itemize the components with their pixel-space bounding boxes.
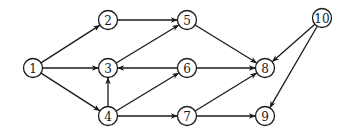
edge-4-to-6 bbox=[116, 73, 178, 111]
node-9: 9 bbox=[256, 107, 275, 126]
node-1: 1 bbox=[24, 59, 43, 78]
node-5: 5 bbox=[178, 11, 197, 30]
node-6: 6 bbox=[178, 59, 197, 78]
edge-10-to-8 bbox=[273, 24, 315, 61]
node-7: 7 bbox=[178, 107, 197, 126]
edge-10-to-9 bbox=[270, 26, 317, 107]
node-label: 8 bbox=[261, 62, 269, 76]
node-10: 10 bbox=[313, 9, 332, 28]
node-label: 3 bbox=[104, 62, 112, 76]
node-label: 6 bbox=[183, 62, 191, 76]
node-3: 3 bbox=[99, 59, 118, 78]
node-label: 2 bbox=[104, 14, 112, 28]
edge-3-to-5 bbox=[116, 25, 178, 63]
directed-graph: 12345678910 bbox=[0, 0, 351, 135]
node-2: 2 bbox=[99, 11, 118, 30]
edge-7-to-8 bbox=[195, 73, 256, 111]
node-label: 9 bbox=[261, 110, 269, 124]
edge-5-to-8 bbox=[195, 25, 256, 63]
node-label: 1 bbox=[29, 62, 37, 76]
node-label: 4 bbox=[104, 110, 112, 124]
node-label: 7 bbox=[183, 110, 191, 124]
node-label: 5 bbox=[183, 14, 191, 28]
edge-1-to-2 bbox=[41, 25, 100, 62]
node-label: 10 bbox=[314, 12, 329, 26]
node-4: 4 bbox=[99, 107, 118, 126]
node-8: 8 bbox=[256, 59, 275, 78]
edge-1-to-4 bbox=[41, 73, 100, 110]
